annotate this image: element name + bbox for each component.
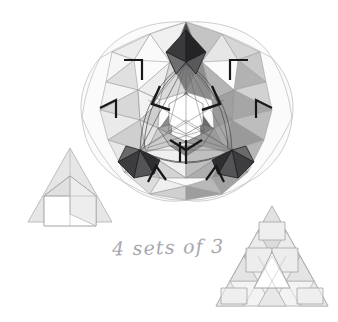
handwritten-caption: 4 sets of 3 xyxy=(112,235,225,260)
geometry-sketch xyxy=(0,0,338,322)
sketch-canvas: 4 sets of 3 xyxy=(0,0,338,322)
